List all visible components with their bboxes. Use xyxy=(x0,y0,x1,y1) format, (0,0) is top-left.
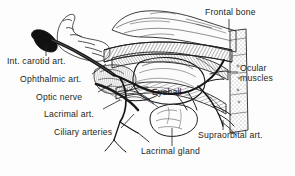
label-ciliary-arteries: Ciliary arteries xyxy=(54,128,112,138)
label-eyeball: Eyeball xyxy=(152,88,182,98)
label-optic-nerve: Optic nerve xyxy=(36,93,82,103)
label-lacrimal-gland: Lacrimal gland xyxy=(141,147,200,157)
label-ophthalmic-art: Ophthalmic art. xyxy=(20,75,81,85)
label-ocular-muscles-line1: Ocular xyxy=(240,63,267,73)
label-frontal-bone: Frontal bone xyxy=(205,8,256,18)
label-ocular-muscles: Ocular muscles xyxy=(240,64,273,83)
label-supraorbital-art: Supraorbital art. xyxy=(198,131,263,141)
label-ocular-muscles-line2: muscles xyxy=(240,74,273,84)
label-lacrimal-art: Lacrimal art. xyxy=(44,110,94,120)
label-int-carotid-art: Int. carotid art. xyxy=(7,57,66,67)
lacrimal-gland-shape xyxy=(150,104,197,136)
anatomical-figure: Int. carotid art. Ophthalmic art. Optic … xyxy=(0,0,295,176)
